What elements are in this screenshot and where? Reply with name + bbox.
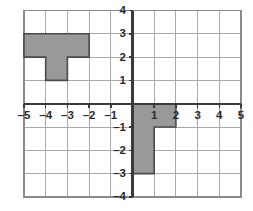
y-axis-tick-label: –4 xyxy=(113,190,126,202)
y-axis-tick-label: 1 xyxy=(120,74,127,86)
x-axis-tick-label: –3 xyxy=(61,109,74,121)
y-axis-tick-label: –2 xyxy=(113,144,126,156)
x-axis-tick-label: –2 xyxy=(83,109,96,121)
x-axis-tick-label: 5 xyxy=(238,109,245,121)
left-figure xyxy=(24,34,89,81)
coordinate-plane-figure: –5–4–3–2–1123454321–1–2–3–4 xyxy=(0,0,253,211)
x-axis-tick-label: –5 xyxy=(18,109,31,121)
y-axis-tick-label: –3 xyxy=(113,167,126,179)
x-axis-tick-label: 2 xyxy=(173,109,179,121)
y-axis-tick-label: 4 xyxy=(120,4,127,16)
x-axis-tick-label: –1 xyxy=(104,109,117,121)
x-axis-tick-label: 4 xyxy=(216,109,223,121)
x-axis-tick-label: 1 xyxy=(151,109,158,121)
x-axis-tick-label: –4 xyxy=(39,109,52,121)
y-axis-tick-label: 3 xyxy=(120,27,126,39)
x-axis-tick-label: 3 xyxy=(194,109,200,121)
coordinate-grid-svg: –5–4–3–2–1123454321–1–2–3–4 xyxy=(0,0,253,211)
y-axis-tick-label: 2 xyxy=(120,51,126,63)
y-axis-tick-label: –1 xyxy=(113,121,126,133)
